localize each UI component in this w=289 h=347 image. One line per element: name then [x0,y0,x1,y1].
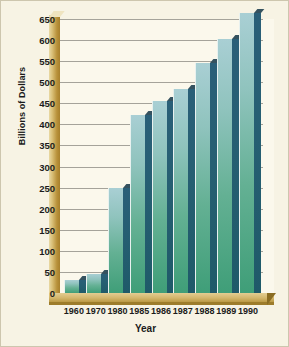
y-tick-label: 0 [23,288,55,299]
bar [64,280,79,293]
x-tick-label: 1988 [195,306,215,316]
bar [130,115,145,293]
y-axis-title: Billions of Dollars [17,41,27,171]
y-tick-label: 550 [23,56,55,67]
x-tick-label: 1989 [216,306,236,316]
y-tick-label: 250 [23,182,55,193]
bar-front-face [152,101,168,293]
bar-top-face [254,9,264,13]
x-tick-label: 1986 [151,306,171,316]
bar-front-face [64,280,80,293]
bar-front-face [108,188,124,293]
bar [173,89,188,293]
x-tick-label: 1970 [86,306,106,316]
bar [152,101,167,293]
x-axis-title: Year [1,323,289,334]
x-tick-label: 1987 [173,306,193,316]
bar-front-face [173,89,189,293]
y-tick-label: 350 [23,140,55,151]
x-tick-label: 1990 [238,306,258,316]
bar-front-face [239,13,255,293]
bar [195,63,210,293]
bar-chart: 050100150200250300350400450500550600650 … [0,0,289,347]
x-tick-label: 1960 [64,306,84,316]
chart-floor [49,293,274,302]
bar [108,188,123,293]
y-tick-label: 500 [23,77,55,88]
y-tick-label: 150 [23,224,55,235]
bar [217,39,232,293]
gridline [59,19,255,20]
bar-front-face [195,63,211,293]
plot-area [59,19,274,293]
y-tick-label: 450 [23,98,55,109]
y-tick-label: 300 [23,161,55,172]
chart-floor-edge [49,302,274,305]
bar-front-face [86,274,102,293]
bar-side-face [254,13,261,293]
y-tick-label: 100 [23,245,55,256]
bar-front-face [130,115,146,293]
bar-front-face [217,39,233,293]
x-tick-label: 1980 [107,306,127,316]
y-tick-label: 50 [23,266,55,277]
x-axis-tick-labels: 196019701980198519861987198819891990 [59,306,274,322]
x-tick-label: 1985 [129,306,149,316]
y-tick-label: 600 [23,35,55,46]
y-tick-label: 200 [23,203,55,214]
y-tick-label: 650 [23,14,55,25]
bar [239,13,254,293]
y-axis-tick-labels: 050100150200250300350400450500550600650 [23,1,55,347]
y-tick-label: 400 [23,119,55,130]
chart-floor-corner [267,293,276,305]
bar [86,274,101,293]
